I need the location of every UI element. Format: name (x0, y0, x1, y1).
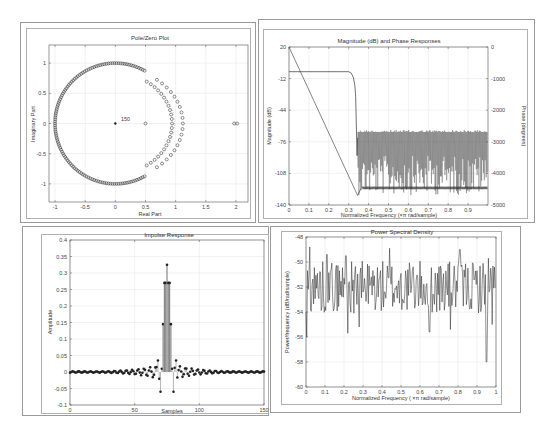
impulse-response-ylabel: Amplitude (47, 310, 53, 334)
x-tick-label: 0 (68, 407, 71, 413)
zero-marker (153, 85, 154, 86)
pole-zero-ylabel: Imaginary Part (30, 106, 36, 142)
zero-marker (97, 64, 100, 67)
zero-marker (171, 108, 172, 109)
x-tick-label: 2 (234, 204, 237, 210)
x-tick-label: 0 (114, 204, 117, 210)
stem-marker (176, 376, 179, 379)
stem-marker (201, 371, 204, 374)
zero-marker (170, 131, 173, 134)
impulse-response-title: Impulse Response (144, 232, 194, 238)
zero-marker (170, 117, 173, 120)
stem-marker (197, 368, 200, 371)
x-tick-label: 1.5 (202, 204, 210, 210)
zero-marker (171, 140, 172, 141)
impulse-response-plot: Impulse Response 0501001500.40.350.30.25… (47, 232, 269, 414)
zero-marker (161, 155, 162, 156)
zero-marker (93, 179, 96, 182)
x-tick-label: 0 (304, 389, 307, 395)
y-tick-label: 0.1 (59, 336, 67, 342)
stem-marker (203, 370, 206, 373)
y-tick-label: 0.05 (56, 353, 67, 359)
psd-trace (306, 247, 495, 362)
zero-marker (168, 109, 171, 112)
x-tick-label: 0.5 (142, 204, 150, 210)
stem-marker (159, 391, 162, 394)
stem-marker (192, 370, 195, 373)
zero-marker (164, 95, 165, 96)
stem-marker (141, 371, 144, 374)
stem-marker (181, 376, 184, 379)
stem-marker (171, 367, 174, 370)
stem-marker (144, 368, 147, 371)
magnitude-phase-title: Magnitude (dB) and Phase Responses (337, 38, 440, 44)
y-tick-label: 0.2 (59, 303, 67, 309)
x-tick-label: 150 (259, 407, 268, 413)
zero-marker (57, 102, 60, 105)
x-tick-label: 0.2 (340, 389, 348, 395)
y-right-tick-label: -4000 (491, 170, 505, 176)
zero-marker (181, 116, 184, 119)
stem-marker (153, 373, 156, 376)
x-tick-label: 0.9 (464, 207, 472, 213)
zero-marker (161, 91, 162, 92)
pole-marker (114, 122, 116, 124)
zero-marker (134, 65, 137, 68)
zero-marker (169, 144, 170, 145)
y-right-tick-label: -3000 (491, 139, 505, 145)
zero-marker (137, 66, 140, 69)
zero-marker (174, 123, 175, 124)
zero-marker (169, 154, 172, 157)
psd-plot: Power Spectral Density 00.10.20.30.40.50… (284, 229, 498, 401)
stem-marker (188, 374, 191, 377)
stem-marker (158, 378, 161, 381)
stem-marker (175, 359, 178, 362)
zero-marker (174, 121, 175, 122)
stem-marker (151, 376, 154, 379)
zero-marker (165, 86, 168, 89)
y-tick-label: -140 (275, 202, 286, 208)
zero-marker (169, 102, 170, 103)
zero-marker (59, 98, 62, 101)
stem-marker (150, 370, 153, 373)
zero-marker (176, 100, 179, 103)
zero-marker (160, 92, 163, 95)
stem-marker (170, 323, 173, 326)
x-tick-label: 0.8 (454, 389, 462, 395)
zero-marker (180, 111, 183, 114)
psd-title: Power Spectral Density (371, 229, 433, 235)
y-tick-label: -1 (41, 181, 46, 187)
zero-marker (161, 82, 164, 85)
stem-marker (149, 366, 152, 369)
zero-marker (164, 152, 165, 153)
psd-xlabel: Normalized Frequency ( ×π rad/sample) (352, 395, 450, 401)
zero-marker (157, 158, 158, 159)
stem-marker (173, 367, 176, 370)
zero-marker (155, 160, 156, 161)
zero-marker (101, 181, 104, 184)
zero-marker (99, 180, 102, 183)
zero-marker (58, 100, 61, 103)
y-tick-label: 1 (43, 60, 46, 66)
x-tick-label: -1 (53, 204, 58, 210)
stem-marker (135, 373, 138, 376)
zero-marker (160, 152, 163, 155)
zero-marker (166, 148, 167, 149)
zero-marker (139, 67, 142, 70)
y-tick-label: 0.15 (56, 320, 67, 326)
stem-marker (185, 367, 188, 370)
zero-marker (162, 154, 163, 155)
zero-marker (59, 146, 62, 149)
x-tick-label: 0.9 (473, 389, 481, 395)
zero-marker (165, 96, 166, 97)
x-tick-label: 0.2 (325, 207, 333, 213)
stem-marker (189, 371, 192, 374)
y-tick-label: -58 (295, 359, 303, 365)
stem-marker (140, 374, 143, 377)
stem-marker (179, 365, 182, 368)
zero-marker (172, 136, 173, 137)
zero-marker (161, 162, 164, 165)
zero-marker (168, 100, 169, 101)
zero-marker (89, 67, 92, 70)
y-tick-label: -0.05 (54, 386, 67, 392)
